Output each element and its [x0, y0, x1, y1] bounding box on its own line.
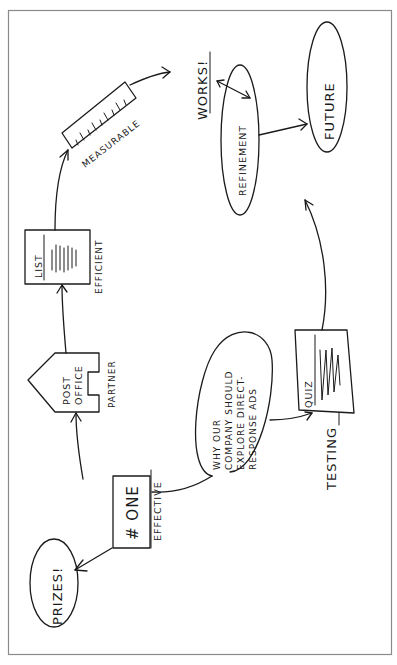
edge-list-measurable [55, 150, 68, 230]
measurable-caption: MEASURABLE [80, 118, 142, 169]
center-node: WHY OUR COMPANY SHOULD EXPLORE DIRECT- R… [196, 332, 273, 476]
future-label: FUTURE [322, 82, 337, 140]
edge-works-refinement [217, 81, 250, 98]
list-caption: EFFICIENT [94, 239, 104, 294]
post-office-line-2: OFFICE [73, 365, 84, 405]
one-node: # ONE EFFECTIVE [113, 470, 163, 548]
edge-postoffice-list [62, 285, 66, 353]
works-node: WORKS! [195, 52, 210, 120]
list-lines-icon [52, 245, 76, 272]
edge-center-quiz [270, 413, 312, 420]
future-node: FUTURE [307, 22, 347, 152]
arrowhead-quiz-icon [305, 412, 312, 420]
center-line-2: COMPANY SHOULD [224, 371, 234, 470]
quiz-node: QUIZ TESTING [295, 330, 354, 491]
center-line-3: EXPLORE DIRECT- [236, 375, 246, 470]
prizes-node: PRIZES! [30, 539, 78, 627]
edge-one-postoffice [76, 413, 83, 479]
list-node: LIST EFFICIENT [25, 230, 104, 294]
one-label: # ONE [124, 485, 142, 540]
diagram-canvas: WHY OUR COMPANY SHOULD EXPLORE DIRECT- R… [0, 0, 397, 665]
edge-quiz-refinement [305, 200, 326, 330]
post-office-caption: PARTNER [107, 360, 117, 408]
measurable-node: MEASURABLE [62, 82, 142, 170]
works-label: WORKS! [195, 60, 210, 120]
quiz-caption: TESTING [324, 427, 339, 491]
post-office-node: POST OFFICE PARTNER [28, 353, 117, 412]
edge-measurable-works [130, 72, 170, 85]
prizes-label: PRIZES! [50, 567, 65, 625]
edge-refinement-future [259, 124, 307, 135]
center-line-1: WHY OUR [212, 419, 222, 470]
center-line-4: RESPONSE ADS [248, 388, 258, 470]
one-caption: EFFECTIVE [152, 481, 163, 541]
quiz-label: QUIZ [303, 380, 314, 408]
edge-one-prizes [75, 548, 112, 570]
quiz-scribble-icon [320, 348, 340, 400]
refinement-node: REFINEMENT [221, 65, 259, 215]
refinement-label: REFINEMENT [237, 125, 248, 196]
list-label: LIST [33, 254, 44, 278]
post-office-line-1: POST [61, 376, 72, 405]
edges [55, 67, 326, 571]
